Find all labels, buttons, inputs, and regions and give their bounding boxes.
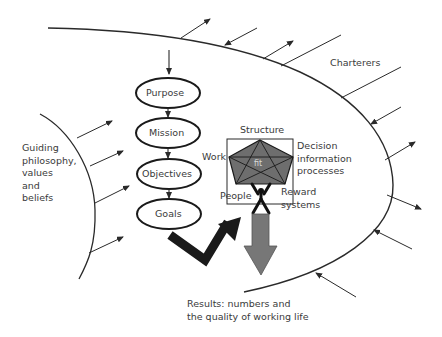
work-label: Work: [202, 151, 226, 164]
node-objectives: Objectives: [142, 168, 192, 181]
philosophy-arrows: [77, 121, 129, 253]
diagram-canvas: Purpose Mission Objectives Goals Guiding…: [0, 0, 442, 337]
decision-information-processes-label: Decision information processes: [297, 140, 352, 178]
results-label: Results: numbers and the quality of work…: [187, 298, 308, 323]
fit-label: fit: [254, 158, 262, 171]
structure-label: Structure: [240, 124, 284, 137]
results-down-arrow: [244, 214, 277, 275]
node-goals: Goals: [155, 208, 182, 221]
reward-systems-label: Reward systems: [281, 186, 320, 211]
charterers-label: Charterers: [330, 57, 380, 70]
node-mission: Mission: [149, 127, 184, 140]
guiding-philosophy-label: Guiding philosophy, values and beliefs: [22, 142, 77, 205]
node-purpose: Purpose: [146, 87, 184, 100]
people-label: People: [220, 190, 252, 203]
